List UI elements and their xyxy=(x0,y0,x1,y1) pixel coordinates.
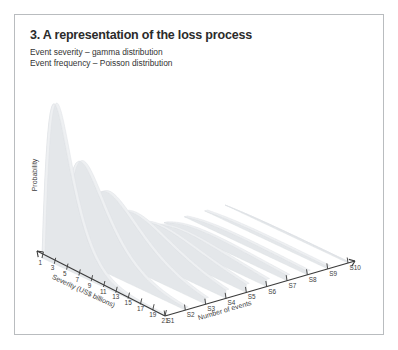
severity-tick-label: 9 xyxy=(88,282,92,289)
severity-tick-label: 3 xyxy=(51,264,55,271)
events-tick-label: S7 xyxy=(289,282,297,289)
events-tick-label: S1 xyxy=(167,317,175,324)
severity-tick-label: 1 xyxy=(39,259,43,266)
severity-tick-label: 5 xyxy=(63,270,67,277)
events-tick-label: S2 xyxy=(187,311,195,318)
events-tick-label: S8 xyxy=(309,276,317,283)
figure-frame: 3. A representation of the loss process … xyxy=(14,14,384,335)
events-tick-label: S9 xyxy=(329,270,337,277)
figure-screenshot: 3. A representation of the loss process … xyxy=(0,0,398,350)
severity-tick-label: 19 xyxy=(149,311,157,318)
severity-tick-label: 17 xyxy=(137,305,145,312)
plot-area: 13579111315171921Severity (US$ billions)… xyxy=(15,15,385,336)
severity-tick-label: 15 xyxy=(125,299,133,306)
probability-axis-title: Probability xyxy=(31,158,39,191)
events-tick-label: S10 xyxy=(350,264,362,271)
severity-tick-label: 11 xyxy=(100,288,107,295)
ridgeline-3d-plot: 13579111315171921Severity (US$ billions)… xyxy=(15,15,385,336)
severity-tick-label: 7 xyxy=(75,276,79,283)
severity-tick-label: 13 xyxy=(112,293,120,300)
events-tick-label: S6 xyxy=(268,288,276,295)
